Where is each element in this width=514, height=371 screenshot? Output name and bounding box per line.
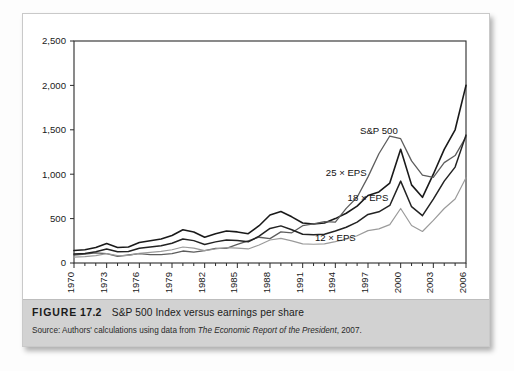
figure-caption-band: FIGURE 17.2 S&P 500 Index versus earning… [23,299,489,346]
x-axis-tick-label: 2006 [457,272,468,293]
source-prefix: Source: Authors' calculations using data… [32,326,198,335]
series-annotation-label: 12 × EPS [315,232,356,243]
x-axis-tick-label: 1973 [98,272,109,293]
series-annotation-label: 18 × EPS [348,192,389,203]
chart-svg: 05001,0001,5002,0002,5001970197319761979… [23,14,489,299]
x-axis-tick-label: 1994 [326,271,337,293]
x-axis-tick-label: 1982 [196,272,207,293]
series-line [74,85,466,250]
y-axis-tick-label: 2,500 [42,35,66,46]
x-axis-tick-label: 1991 [294,272,305,293]
series-annotation-label: S&P 500 [360,125,398,136]
y-axis-tick-label: 1,500 [42,124,66,135]
y-axis-tick-label: 0 [61,257,66,268]
y-axis-tick-label: 2,000 [42,80,66,91]
x-axis-tick-label: 1985 [228,272,239,293]
y-axis-tick-label: 1,000 [42,169,66,180]
x-axis-tick-label: 1976 [130,272,141,293]
source-publication: The Economic Report of the President [198,326,337,335]
x-axis-tick-label: 2003 [424,272,435,293]
x-axis-tick-label: 1997 [359,272,370,293]
figure-source-line: Source: Authors' calculations using data… [32,326,362,335]
y-axis-tick-label: 500 [50,213,66,224]
x-axis-tick-label: 2000 [392,272,403,293]
figure-title-text: S&P 500 Index versus earnings per share [112,307,304,318]
figure-label-word: FIGURE [32,306,77,318]
plot-panel: 05001,0001,5002,0002,5001970197319761979… [23,14,489,299]
figure-caption-title: FIGURE 17.2 S&P 500 Index versus earning… [32,306,304,318]
x-axis-tick-label: 1988 [261,272,272,293]
figure-number: 17.2 [80,306,102,318]
series-annotation-label: 25 × EPS [326,167,367,178]
source-suffix: , 2007. [337,326,362,335]
figure-card: 05001,0001,5002,0002,5001970197319761979… [22,13,490,347]
figure-root: 05001,0001,5002,0002,5001970197319761979… [0,0,514,371]
x-axis-tick-label: 1979 [163,272,174,293]
x-axis-tick-label: 1970 [65,272,76,293]
